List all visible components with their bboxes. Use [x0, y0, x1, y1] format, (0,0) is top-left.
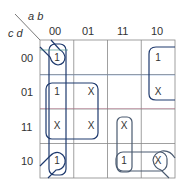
column-variables: a b — [28, 10, 43, 22]
row-label-11: 11 — [21, 121, 32, 133]
cell-11-11: X — [107, 120, 141, 132]
col-label-10: 10 — [151, 25, 163, 37]
cell-00-10: 1 — [141, 52, 175, 64]
row-variables: c d — [8, 27, 23, 39]
row-label-10: 10 — [21, 155, 33, 167]
cell-10-00: 1 — [40, 155, 74, 167]
cell-11-00: X — [40, 120, 74, 132]
cell-10-10: X — [141, 155, 175, 167]
row-label-01: 01 — [21, 86, 33, 98]
cell-01-10: X — [141, 86, 175, 98]
row-label-00: 00 — [21, 52, 33, 64]
cell-01-00: 1 — [40, 86, 74, 98]
col-label-11: 11 — [117, 25, 128, 37]
cell-11-01: X — [74, 120, 108, 132]
cell-01-01: X — [74, 86, 108, 98]
col-label-00: 00 — [49, 25, 61, 37]
col-label-01: 01 — [82, 25, 94, 37]
cell-10-11: 1 — [107, 155, 141, 167]
cell-00-00: 1 — [40, 52, 74, 64]
